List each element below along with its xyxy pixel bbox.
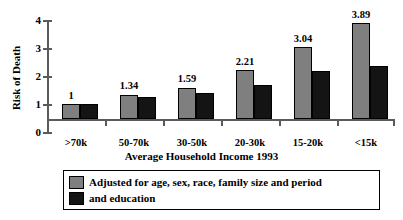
bar-group->70k: 1: [47, 14, 105, 134]
bar->70k-series-1: [80, 104, 98, 119]
y-tick-label-1: 1: [36, 99, 42, 110]
y-tick-label-4: 4: [36, 15, 42, 26]
value-label-15-20k-series-0: 3.04: [287, 34, 319, 45]
bar-15-20k-series-1: [312, 71, 330, 119]
y-tick-label-2: 2: [36, 71, 42, 82]
bar-groups: 11.341.592.213.043.89: [47, 14, 395, 134]
bar-group-20-30k: 2.21: [221, 14, 279, 134]
legend-item-1: and education: [69, 190, 155, 206]
bar-20-30k-series-0: [236, 70, 254, 119]
y-axis-title: Risk of Death: [10, 33, 22, 123]
bar-group-<15k: 3.89: [337, 14, 395, 134]
legend-label-series-0: Adjusted for age, sex, race, family size…: [89, 177, 322, 188]
legend-swatch-series-1: [69, 192, 84, 205]
x-axis-label-15-20k: 15-20k: [293, 137, 323, 148]
plot-area: 01234 11.341.592.213.043.89: [47, 14, 395, 134]
x-axis-label->70k: >70k: [65, 137, 87, 148]
x-axis-label-30-50k: 30-50k: [177, 137, 207, 148]
x-axis-label-20-30k: 20-30k: [235, 137, 265, 148]
legend-swatch-series-0: [69, 176, 84, 189]
value-label-30-50k-series-0: 1.59: [171, 74, 203, 85]
legend: Adjusted for age, sex, race, family size…: [63, 170, 380, 210]
bar-<15k-series-1: [370, 66, 388, 120]
value-label->70k-series-0: 1: [55, 91, 87, 102]
value-label-<15k-series-0: 3.89: [345, 10, 377, 21]
legend-item-0: Adjusted for age, sex, race, family size…: [69, 174, 322, 190]
bar-50-70k-series-1: [138, 97, 156, 120]
value-label-20-30k-series-0: 2.21: [229, 57, 261, 68]
x-axis-tick-labels: >70k50-70k30-50k20-30k15-20k<15k: [47, 137, 395, 151]
bar-20-30k-series-1: [254, 85, 272, 119]
bar-<15k-series-0: [352, 23, 370, 119]
x-axis-label-<15k: <15k: [355, 137, 377, 148]
x-axis-label-50-70k: 50-70k: [119, 137, 149, 148]
chart-figure: Risk of Death 01234 11.341.592.213.043.8…: [0, 0, 403, 220]
bar->70k-series-0: [62, 104, 80, 119]
bar-30-50k-series-1: [196, 93, 214, 120]
legend-label-series-1: and education: [89, 193, 155, 204]
x-axis-title: Average Household Income 1993: [0, 150, 403, 162]
bar-group-50-70k: 1.34: [105, 14, 163, 134]
value-label-50-70k-series-0: 1.34: [113, 81, 145, 92]
bar-group-15-20k: 3.04: [279, 14, 337, 134]
bar-15-20k-series-0: [294, 47, 312, 120]
bar-50-70k-series-0: [120, 95, 138, 120]
y-tick-label-3: 3: [36, 43, 42, 54]
bar-group-30-50k: 1.59: [163, 14, 221, 134]
y-tick-label-0: 0: [36, 127, 42, 138]
bar-30-50k-series-0: [178, 88, 196, 120]
